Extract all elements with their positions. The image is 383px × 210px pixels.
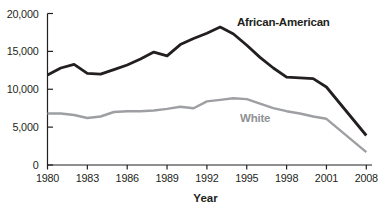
y-axis-tick-label: 0 [33, 159, 39, 171]
y-axis-tick-label: 15,000 [7, 45, 39, 57]
axes [48, 14, 373, 166]
y-axis-tick-label: 10,000 [7, 83, 39, 95]
x-axis-tick-label: 2001 [315, 172, 338, 184]
x-axis-tick-label: 1998 [275, 172, 298, 184]
x-axis-tick-label: 1980 [36, 172, 59, 184]
series-line-white [48, 98, 367, 152]
x-axis-tick-label: 1986 [116, 172, 139, 184]
series-label-african-american: African-American [237, 16, 330, 28]
x-axis-tick-label: 1983 [76, 172, 99, 184]
series-label-white: White [240, 112, 270, 124]
y-axis-tick-label: 20,000 [7, 8, 39, 20]
series-line-african-american [48, 27, 367, 135]
x-axis-tick-label: 1992 [195, 172, 218, 184]
x-axis-title: Year [193, 192, 218, 204]
axis-tick-labels: 05,00010,00015,00020,0001980198319861989… [7, 8, 378, 184]
chart-canvas: 05,00010,00015,00020,0001980198319861989… [0, 0, 383, 210]
series-lines [48, 27, 367, 152]
x-axis-tick-label: 1989 [155, 172, 178, 184]
line-chart: 05,00010,00015,00020,0001980198319861989… [0, 0, 383, 210]
x-axis-tick-label: 2008 [355, 172, 378, 184]
y-axis-tick-label: 5,000 [12, 121, 38, 133]
axis-lines [48, 14, 373, 166]
x-axis-tick-label: 1995 [235, 172, 258, 184]
axis-ticks [48, 14, 367, 170]
